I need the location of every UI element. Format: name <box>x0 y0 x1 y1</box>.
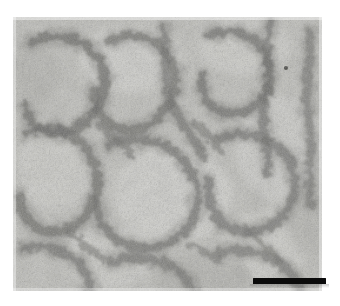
scale-bar <box>253 278 326 284</box>
scale-bar-shadow <box>250 284 329 288</box>
electron-micrograph-image <box>13 17 322 291</box>
micrograph-canvas <box>13 17 322 291</box>
figure-root <box>0 0 340 306</box>
